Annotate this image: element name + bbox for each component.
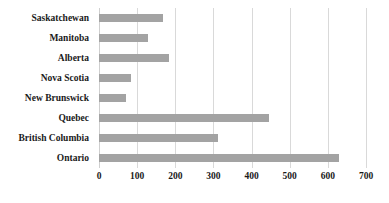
plot-area [99,8,366,168]
x-axis-tick-labels: 0100200300400500600700 [99,170,366,186]
category-label: Nova Scotia [0,73,89,83]
category-axis-labels: SaskatchewanManitobaAlbertaNova ScotiaNe… [0,8,94,168]
category-label: New Brunswick [0,93,89,103]
x-tick-label: 0 [97,170,102,182]
bar[interactable] [99,114,269,122]
bar[interactable] [99,34,148,42]
category-label: Ontario [0,153,89,163]
x-tick-label: 500 [283,170,297,182]
bar-chart: SaskatchewanManitobaAlbertaNova ScotiaNe… [0,0,389,203]
x-tick-label: 600 [321,170,335,182]
category-label: Manitoba [0,33,89,43]
category-label: Quebec [0,113,89,123]
bar[interactable] [99,94,126,102]
category-label: British Columbia [0,133,89,143]
gridline-200 [175,8,176,168]
category-label: Alberta [0,53,89,63]
gridline-400 [252,8,253,168]
gridline-500 [290,8,291,168]
bar[interactable] [99,134,218,142]
bar[interactable] [99,14,163,22]
x-tick-label: 700 [359,170,373,182]
gridline-300 [213,8,214,168]
bar[interactable] [99,154,339,162]
x-tick-label: 300 [206,170,220,182]
category-label: Saskatchewan [0,13,89,23]
gridline-0 [99,8,100,168]
gridline-700 [366,8,367,168]
gridline-100 [137,8,138,168]
x-tick-label: 100 [130,170,144,182]
bar[interactable] [99,54,169,62]
x-tick-label: 400 [244,170,258,182]
x-tick-label: 200 [168,170,182,182]
gridline-600 [328,8,329,168]
bar[interactable] [99,74,131,82]
